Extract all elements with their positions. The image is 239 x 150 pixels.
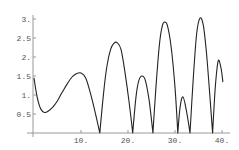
x-tick-label: 30. <box>168 136 182 145</box>
y-tick-label: 2. <box>21 53 31 62</box>
x-axis: 10.20.30.40. <box>27 130 230 145</box>
x-ticks: 10.20.30.40. <box>74 130 229 145</box>
y-tick-label: 1. <box>21 91 31 100</box>
x-tick-label: 10. <box>74 136 88 145</box>
y-tick-label: 2.5 <box>17 34 32 43</box>
y-tick-label: 1.5 <box>17 72 32 81</box>
y-tick-label: 0.5 <box>17 110 32 119</box>
x-tick-label: 40. <box>215 136 229 145</box>
y-axis: 0.51.1.52.2.53. <box>17 15 36 137</box>
y-tick-label: 3. <box>21 15 31 24</box>
x-tick-label: 20. <box>121 136 135 145</box>
data-line <box>34 18 223 133</box>
line-chart: 10.20.30.40. 0.51.1.52.2.53. <box>0 0 239 150</box>
